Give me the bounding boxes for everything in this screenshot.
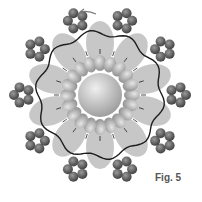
outer-atom bbox=[15, 98, 25, 108]
core-sphere bbox=[78, 73, 122, 117]
outer-atom bbox=[77, 169, 87, 179]
outer-atom bbox=[77, 11, 87, 21]
outer-atom bbox=[25, 131, 35, 141]
outer-atom bbox=[156, 128, 166, 138]
outer-atom bbox=[127, 164, 137, 174]
outer-atom bbox=[113, 159, 123, 169]
outer-atom bbox=[113, 11, 123, 21]
outer-atom bbox=[167, 85, 177, 95]
outer-atom bbox=[25, 141, 35, 151]
bond-line bbox=[86, 134, 88, 139]
outer-atom bbox=[165, 141, 175, 151]
outer-atom bbox=[165, 49, 175, 59]
outer-atom bbox=[15, 82, 25, 92]
outer-atom bbox=[25, 49, 35, 59]
rotation-arrow-icon bbox=[80, 9, 96, 15]
figure-caption: Fig. 5 bbox=[155, 172, 181, 183]
outer-atom bbox=[122, 23, 132, 33]
outer-atom bbox=[63, 16, 73, 26]
outer-atom bbox=[77, 21, 87, 31]
outer-atom bbox=[175, 82, 185, 92]
outer-atom bbox=[23, 95, 33, 105]
outer-atom bbox=[113, 21, 123, 31]
bond-line bbox=[86, 51, 88, 56]
outer-atom bbox=[25, 39, 35, 49]
outer-atom bbox=[165, 131, 175, 141]
outer-atom bbox=[167, 95, 177, 105]
outer-atom bbox=[165, 39, 175, 49]
outer-atom bbox=[175, 98, 185, 108]
bond-line bbox=[113, 51, 115, 56]
outer-atom bbox=[77, 159, 87, 169]
outer-atom bbox=[68, 157, 78, 167]
outer-atom bbox=[113, 169, 123, 179]
bond-line bbox=[113, 134, 115, 139]
outer-atom bbox=[34, 52, 44, 62]
outer-atom bbox=[34, 143, 44, 153]
outer-atom bbox=[156, 37, 166, 47]
outer-atom bbox=[23, 85, 33, 95]
